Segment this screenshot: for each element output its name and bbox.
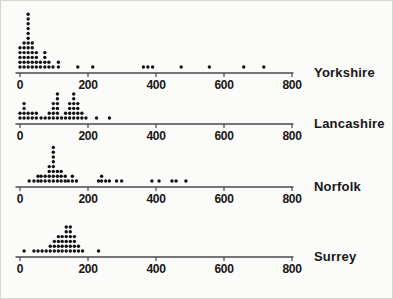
data-dot (108, 116, 111, 119)
data-dot (22, 102, 25, 105)
data-dot (56, 179, 59, 182)
data-dot (52, 151, 55, 154)
data-dot (64, 179, 67, 182)
data-dot (22, 56, 25, 59)
data-dot (56, 92, 59, 95)
data-dot (208, 65, 211, 68)
data-dot (65, 240, 68, 243)
x-tick-label: 800 (282, 129, 302, 143)
county-label: Surrey (314, 249, 357, 264)
data-dot (57, 249, 60, 252)
data-dot (35, 112, 38, 115)
data-dot (72, 112, 75, 115)
data-dot (52, 146, 55, 149)
data-dot (69, 245, 72, 248)
data-dot (73, 249, 76, 252)
data-dot (150, 179, 153, 182)
data-dot (43, 56, 46, 59)
data-dot (39, 179, 42, 182)
data-dot (72, 92, 75, 95)
data-dot (76, 112, 79, 115)
data-dot (68, 112, 71, 115)
data-dot (35, 51, 38, 54)
data-dot (22, 107, 25, 110)
data-dot (35, 116, 38, 119)
data-dot (43, 116, 46, 119)
data-dot (65, 230, 68, 233)
data-dot (43, 175, 46, 178)
data-dot (26, 27, 29, 30)
data-dot (35, 65, 38, 68)
county-label: Yorkshire (314, 65, 375, 80)
data-dot (170, 179, 173, 182)
data-dot (57, 235, 60, 238)
data-dot (146, 65, 149, 68)
data-dot (26, 61, 29, 64)
x-tick-label: 400 (146, 129, 166, 143)
data-dot (120, 179, 123, 182)
data-dot (52, 102, 55, 105)
data-dot (26, 112, 29, 115)
data-dot (52, 160, 55, 163)
data-dot (84, 116, 87, 119)
data-dot (53, 240, 56, 243)
data-dot (68, 116, 71, 119)
data-dot (56, 102, 59, 105)
data-dot (18, 46, 21, 49)
data-dot (80, 116, 83, 119)
data-dot (26, 65, 29, 68)
data-dot (97, 249, 100, 252)
county-label: Norfolk (314, 179, 361, 194)
data-dot (56, 170, 59, 173)
data-dot (57, 245, 60, 248)
data-dot (52, 175, 55, 178)
data-dot (40, 249, 43, 252)
data-dot (59, 179, 62, 182)
data-dot (72, 107, 75, 110)
data-dot (48, 175, 51, 178)
data-dot (76, 107, 79, 110)
data-dot (73, 245, 76, 248)
data-dot (39, 116, 42, 119)
data-dot (52, 116, 55, 119)
data-dot (77, 245, 80, 248)
data-dot (60, 240, 63, 243)
data-dot (179, 65, 182, 68)
data-dot (67, 179, 70, 182)
data-dot (48, 112, 51, 115)
data-dot (27, 179, 30, 182)
data-dot (68, 102, 71, 105)
data-dot (95, 116, 98, 119)
data-dot (56, 107, 59, 110)
data-dot (65, 249, 68, 252)
data-dot (64, 112, 67, 115)
x-tick-label: 0 (17, 78, 24, 92)
x-tick-label: 0 (17, 262, 24, 276)
data-dot (64, 116, 67, 119)
data-dot (184, 179, 187, 182)
data-dot (26, 37, 29, 40)
data-dot (262, 65, 265, 68)
data-dot (71, 179, 74, 182)
data-dot (76, 65, 79, 68)
x-tick-label: 600 (214, 129, 234, 143)
data-dot (22, 46, 25, 49)
x-tick-label: 200 (78, 129, 98, 143)
data-dot (65, 235, 68, 238)
data-dot (100, 179, 103, 182)
x-tick-label: 600 (214, 192, 234, 206)
data-dot (26, 46, 29, 49)
data-dot (49, 249, 52, 252)
data-dot (52, 179, 55, 182)
data-dot (56, 112, 59, 115)
data-dot (60, 249, 63, 252)
data-dot (44, 249, 47, 252)
data-dot (60, 116, 63, 119)
data-dot (76, 102, 79, 105)
data-dot (26, 116, 29, 119)
data-dot (100, 175, 103, 178)
data-dot (157, 179, 160, 182)
data-dot (31, 116, 34, 119)
data-dot (56, 97, 59, 100)
x-tick-label: 0 (17, 192, 24, 206)
